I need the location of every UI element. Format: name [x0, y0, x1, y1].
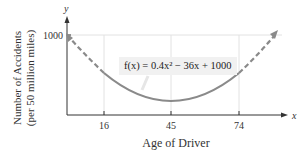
y-axis-label-line-2: (per 50 million miles)	[24, 13, 37, 143]
x-axis-symbol: x	[291, 110, 297, 121]
chart-canvas: y x 1000 16 45 74	[0, 0, 304, 156]
y-tick-label-1000: 1000	[43, 30, 63, 41]
curve-dashed-left	[67, 35, 104, 73]
equation-label: f(x) = 0.4x² − 36x + 1000	[119, 57, 237, 75]
y-axis-arrow-icon	[65, 16, 70, 23]
y-axis-symbol: y	[63, 3, 69, 14]
x-tick-label-74: 74	[234, 120, 244, 131]
equation-pointer	[142, 76, 148, 90]
x-tick-label-45: 45	[166, 120, 176, 131]
x-tick-label-16: 16	[99, 120, 109, 131]
curve-dashed-right	[239, 35, 275, 73]
x-axis-arrow-icon	[281, 113, 288, 118]
y-axis-label-line-1: Number of Accidents	[11, 13, 24, 143]
x-axis-label: Age of Driver	[131, 136, 221, 151]
y-axis-label: Number of Accidents (per 50 million mile…	[11, 13, 43, 143]
